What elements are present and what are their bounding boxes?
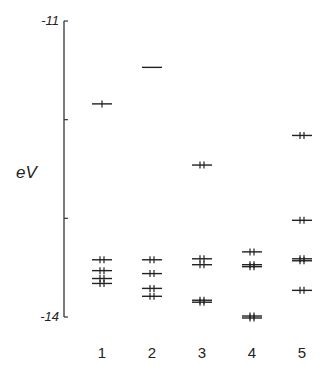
energy-level xyxy=(242,248,262,255)
energy-level xyxy=(92,256,112,263)
energy-level xyxy=(192,261,212,268)
energy-level xyxy=(92,275,112,282)
column-label: 3 xyxy=(198,344,206,361)
energy-levels xyxy=(92,67,312,321)
energy-level xyxy=(92,280,112,287)
energy-level xyxy=(142,256,162,263)
y-axis: -11-14eV xyxy=(16,13,68,324)
energy-level xyxy=(142,285,162,292)
column-label: 4 xyxy=(248,344,256,361)
energy-level xyxy=(142,270,162,277)
y-tick-label: -11 xyxy=(41,13,59,28)
column-labels: 12345 xyxy=(98,344,306,361)
energy-level xyxy=(292,132,312,139)
energy-level xyxy=(92,267,112,274)
column-label: 1 xyxy=(98,344,106,361)
energy-level xyxy=(292,287,312,294)
energy-level xyxy=(292,217,312,224)
column-label: 2 xyxy=(148,344,156,361)
energy-level xyxy=(192,162,212,169)
y-axis-label: eV xyxy=(16,163,38,182)
column-label: 5 xyxy=(298,344,306,361)
energy-level xyxy=(92,100,112,107)
energy-level xyxy=(192,255,212,262)
y-tick-label: -14 xyxy=(40,309,59,324)
energy-level xyxy=(142,293,162,300)
energy-level-diagram: -11-14eV 12345 xyxy=(0,0,327,371)
